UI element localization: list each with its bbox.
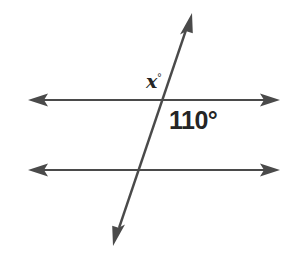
geometry-figure: x° 110°: [0, 0, 297, 261]
angle-label-110: 110°: [169, 108, 217, 133]
top-parallel-line: [28, 94, 280, 107]
bottom-parallel-line: [28, 164, 280, 177]
angle-label-x-variable: x: [146, 70, 157, 92]
figure-canvas: [0, 0, 297, 261]
degree-symbol-icon: °: [157, 71, 161, 83]
angle-label-x: x°: [146, 72, 162, 91]
